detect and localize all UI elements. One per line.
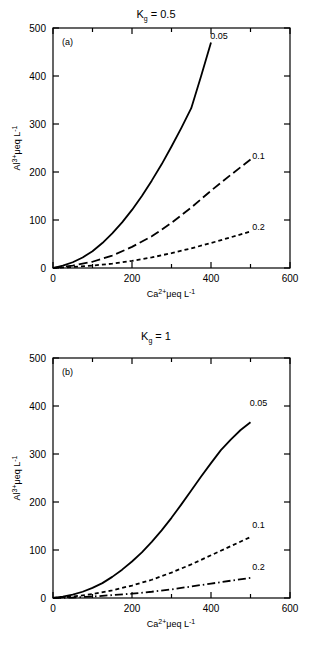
ylabel-exponent-b: -1: [11, 455, 18, 461]
svg-text:Al3+μeq L-1: Al3+μeq L-1: [11, 125, 22, 170]
x-tick-label: 600: [282, 273, 299, 284]
xlabel-exponent-a: -1: [189, 288, 195, 295]
curve-label-0-1: 0.1: [252, 520, 265, 530]
x-axis-title-a: Ca2+μeq L-1: [147, 288, 196, 299]
svg-text:Ca2+μeq L-1: Ca2+μeq L-1: [147, 618, 196, 629]
ylabel-units-a: μeq L: [12, 132, 22, 155]
x-tick-label: 0: [50, 273, 56, 284]
y-axis-title-a: Al3+μeq L-1: [11, 125, 22, 170]
svg-text:Ca2+μeq L-1: Ca2+μeq L-1: [147, 288, 196, 299]
y-tick-label: 0: [40, 263, 46, 274]
x-tick-label: 400: [203, 603, 220, 614]
curve-label-0-05: 0.05: [210, 31, 228, 41]
chart-title-a: Kg = 0.5: [136, 8, 175, 23]
chart-title-b: Kg = 1: [141, 330, 171, 345]
ylabel-species-a: Al: [12, 162, 22, 170]
curve-labels-a: 0.050.10.2: [210, 31, 265, 233]
y-tick-label: 200: [29, 497, 46, 508]
panel-tag-b: (b): [62, 367, 73, 377]
xlabel-units-a: μeq L: [166, 289, 189, 299]
y-tick-label: 300: [29, 449, 46, 460]
curves-b: [53, 422, 251, 598]
curve-label-0-05: 0.05: [250, 398, 268, 408]
curve-label-0-2: 0.2: [252, 222, 265, 232]
y-tick-label: 300: [29, 119, 46, 130]
x-tick-label: 200: [124, 603, 141, 614]
ylabel-charge-a: 3+: [11, 154, 18, 162]
curve-0-05: [53, 422, 251, 598]
xlabel-charge-a: 2+: [158, 288, 166, 295]
y-tick-label: 400: [29, 401, 46, 412]
chart-panel-a: Kg = 0.5 02004006000100200300400500 0.05…: [0, 0, 312, 320]
ylabel-exponent-a: -1: [11, 125, 18, 131]
svg-text:Al3+μeq L-1: Al3+μeq L-1: [11, 455, 22, 500]
plot-area-b: 02004006000100200300400500 0.050.10.2: [29, 353, 298, 615]
curve-label-0-2: 0.2: [252, 562, 265, 572]
y-tick-label: 100: [29, 545, 46, 556]
y-tick-label: 100: [29, 215, 46, 226]
panel-tag-a: (a): [62, 37, 73, 47]
title-equals-a: =: [148, 8, 161, 20]
title-equals-b: =: [152, 330, 165, 342]
xlabel-exponent-b: -1: [189, 618, 195, 625]
curves-a: [53, 42, 251, 268]
y-tick-label: 500: [29, 23, 46, 34]
title-value-b: 1: [165, 330, 171, 342]
x-axis-title-b: Ca2+μeq L-1: [147, 618, 196, 629]
curve-0-1: [53, 537, 251, 598]
curve-label-0-1: 0.1: [252, 151, 265, 161]
ylabel-charge-b: 3+: [11, 484, 18, 492]
ylabel-species-b: Al: [12, 492, 22, 500]
y-tick-label: 400: [29, 71, 46, 82]
xlabel-species-a: Ca: [147, 289, 159, 299]
xlabel-units-b: μeq L: [166, 619, 189, 629]
svg-text:Kg = 1: Kg = 1: [141, 330, 171, 345]
xlabel-species-b: Ca: [147, 619, 159, 629]
x-tick-label: 600: [282, 603, 299, 614]
x-tick-label: 0: [50, 603, 56, 614]
chart-svg-b: Kg = 1 02004006000100200300400500 0.050.…: [0, 320, 312, 653]
x-tick-label: 400: [203, 273, 220, 284]
xlabel-charge-b: 2+: [158, 618, 166, 625]
ylabel-units-b: μeq L: [12, 462, 22, 485]
chart-panel-b: Kg = 1 02004006000100200300400500 0.050.…: [0, 320, 312, 653]
y-tick-label: 0: [40, 593, 46, 604]
title-value-a: 0.5: [160, 8, 175, 20]
figure-container: Kg = 0.5 02004006000100200300400500 0.05…: [0, 0, 312, 653]
y-tick-label: 500: [29, 353, 46, 364]
y-axis-title-b: Al3+μeq L-1: [11, 455, 22, 500]
chart-svg-a: Kg = 0.5 02004006000100200300400500 0.05…: [0, 0, 312, 320]
x-tick-label: 200: [124, 273, 141, 284]
curve-0-1: [53, 160, 251, 268]
plot-area-a: 02004006000100200300400500 0.050.10.2: [29, 23, 298, 285]
y-tick-label: 200: [29, 167, 46, 178]
curve-0-05: [53, 42, 211, 268]
curve-labels-b: 0.050.10.2: [250, 398, 268, 572]
svg-text:Kg = 0.5: Kg = 0.5: [136, 8, 175, 23]
